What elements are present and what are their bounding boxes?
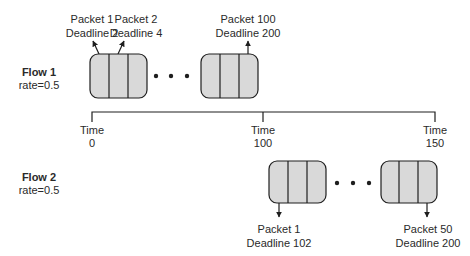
timeline-tick-0: 0 <box>89 137 95 149</box>
timeline-axis <box>92 112 435 122</box>
flow2-name: Flow 2 <box>22 171 56 183</box>
flow2-packet1-deadline: Deadline 102 <box>247 237 312 249</box>
flow1-packet1-label: Packet 1 <box>71 13 114 25</box>
arrow-up-icon <box>93 41 99 54</box>
flow1-rate: rate=0.5 <box>19 79 60 91</box>
arrow-up-icon <box>118 41 124 54</box>
flow1-packet100-deadline: Deadline 200 <box>216 27 281 39</box>
ellipsis-icon <box>154 74 189 78</box>
flow1-packet100-label: Packet 100 <box>220 13 275 25</box>
flow1-name: Flow 1 <box>22 66 56 78</box>
flow2-queue-box-first <box>269 161 326 203</box>
flow1-packet2-label: Packet 2 <box>115 13 158 25</box>
timeline-label-100: Time <box>251 124 275 136</box>
flow2-queue-box-last <box>381 161 437 203</box>
flow1-queue-box-last <box>201 54 258 98</box>
flow2-rate: rate=0.5 <box>19 184 60 196</box>
flow2-packet50-deadline: Deadline 200 <box>396 237 461 249</box>
timeline-tick-150: 150 <box>426 137 444 149</box>
flow1-packet2-deadline: Deadline 4 <box>110 27 163 39</box>
timeline-label-150: Time <box>423 124 447 136</box>
timeline-label-0: Time <box>80 124 104 136</box>
flow2-packet50-label: Packet 50 <box>404 223 453 235</box>
ellipsis-icon <box>335 181 371 185</box>
flow2-packet1-label: Packet 1 <box>258 223 301 235</box>
packet-deadline-diagram: Flow 1 rate=0.5 Packet 1 Deadline 2 Pack… <box>0 0 470 256</box>
timeline-tick-100: 100 <box>254 137 272 149</box>
flow1-queue-box-first <box>90 54 147 98</box>
